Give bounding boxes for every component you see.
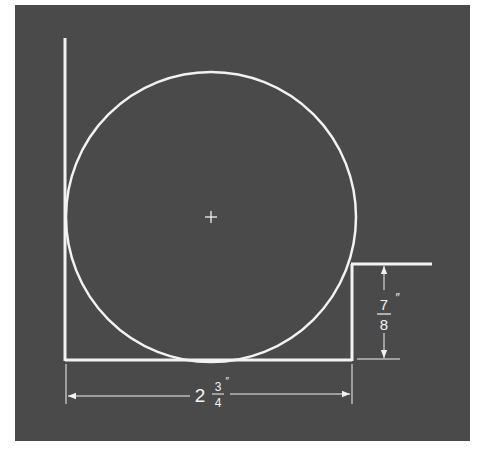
height-denominator: 8: [380, 316, 388, 333]
height-dimension-label: 7 8 ″: [377, 291, 400, 333]
width-numerator: 3: [215, 380, 222, 394]
width-denominator: 4: [215, 396, 222, 410]
width-dimension-label: 2 3 4 ″: [195, 376, 229, 410]
figure: 7 8 ″ 2 3 4 ″: [0, 0, 480, 460]
height-numerator: 7: [380, 296, 388, 313]
width-unit: ″: [225, 376, 229, 387]
width-whole: 2: [195, 385, 206, 406]
height-unit: ″: [395, 291, 400, 305]
geometry-drawing: 7 8 ″ 2 3 4 ″: [0, 0, 480, 460]
center-mark-icon: [205, 211, 217, 223]
